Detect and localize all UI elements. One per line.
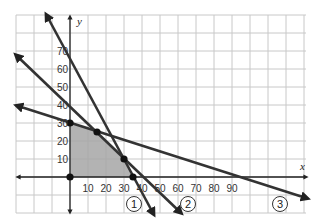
y-tick-label: 50 [57,82,69,93]
y-tick-label: 10 [57,154,69,165]
x-tick-label: 70 [190,183,202,194]
x-tick-label: 30 [118,183,130,194]
x-tick-labels: 102030405060708090 [82,183,238,194]
svg-text:2: 2 [185,198,191,210]
y-tick-label: 60 [57,64,69,75]
chart-svg: 102030405060708090 10203040506070 x y 1 … [0,0,324,224]
chart: 102030405060708090 10203040506070 x y 1 … [0,0,324,224]
svg-text:3: 3 [277,198,283,210]
y-tick-label: 30 [57,118,69,129]
vertex-point [129,173,136,180]
line-2-label: 2 [181,197,196,212]
x-tick-label: 90 [226,183,238,194]
y-tick-label: 20 [57,136,69,147]
vertex-point [120,155,127,162]
vertex-point [66,173,73,180]
y-axis-label: y [76,15,82,27]
x-tick-label: 40 [136,183,148,194]
line-3-label: 3 [273,197,288,212]
svg-text:1: 1 [131,198,137,210]
line-1-label: 1 [127,197,142,212]
y-tick-label: 70 [57,46,69,57]
x-tick-label: 80 [208,183,220,194]
x-tick-label: 10 [82,183,94,194]
y-tick-label: 40 [57,100,69,111]
vertex-point [93,128,100,135]
x-tick-label: 60 [172,183,184,194]
x-axis-label: x [299,160,305,172]
x-tick-label: 50 [154,183,166,194]
y-tick-labels: 10203040506070 [57,46,69,165]
x-tick-label: 20 [100,183,112,194]
